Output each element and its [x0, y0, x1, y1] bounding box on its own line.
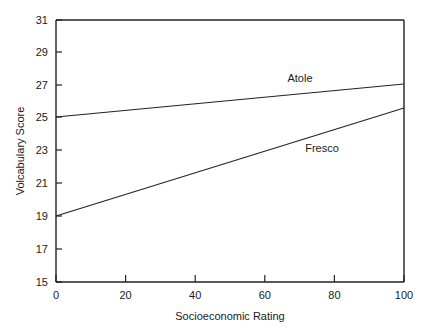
x-tick-label-40: 40 [189, 289, 201, 301]
y-tick-label-17: 17 [36, 243, 48, 255]
x-axis-title: Socioeconomic Rating [175, 310, 284, 322]
y-tick-label-31: 31 [36, 14, 48, 26]
y-tick-label-21: 21 [36, 177, 48, 189]
y-tick-label-19: 19 [36, 210, 48, 222]
series-label-fresco: Fresco [305, 142, 339, 154]
series-label-atole: Atole [287, 72, 312, 84]
y-tick-label-25: 25 [36, 111, 48, 123]
y-tick-label-15: 15 [36, 276, 48, 288]
x-tick-label-0: 0 [53, 289, 59, 301]
x-tick-label-20: 20 [119, 289, 131, 301]
x-tick-label-100: 100 [395, 289, 413, 301]
line-chart: 31 29 27 25 23 21 19 17 15 0 20 40 60 80… [0, 0, 426, 334]
x-tick-label-60: 60 [259, 289, 271, 301]
chart-container: 31 29 27 25 23 21 19 17 15 0 20 40 60 80… [0, 0, 426, 334]
y-tick-label-27: 27 [36, 79, 48, 91]
x-tick-label-80: 80 [328, 289, 340, 301]
series-line-fresco [56, 108, 404, 216]
series-line-atole [56, 84, 404, 117]
y-tick-label-23: 23 [36, 144, 48, 156]
y-axis-title: Volcabulary Score [14, 107, 26, 196]
y-tick-label-29: 29 [36, 46, 48, 58]
